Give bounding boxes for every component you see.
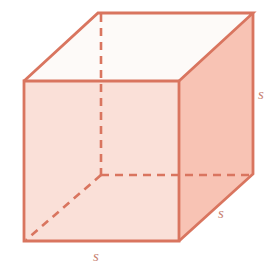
side-label-height: s <box>258 87 264 102</box>
side-label-depth: s <box>218 206 224 221</box>
cube-figure-container: s s s <box>0 0 277 277</box>
side-label-width: s <box>93 249 99 264</box>
cube-drawing <box>0 0 277 277</box>
